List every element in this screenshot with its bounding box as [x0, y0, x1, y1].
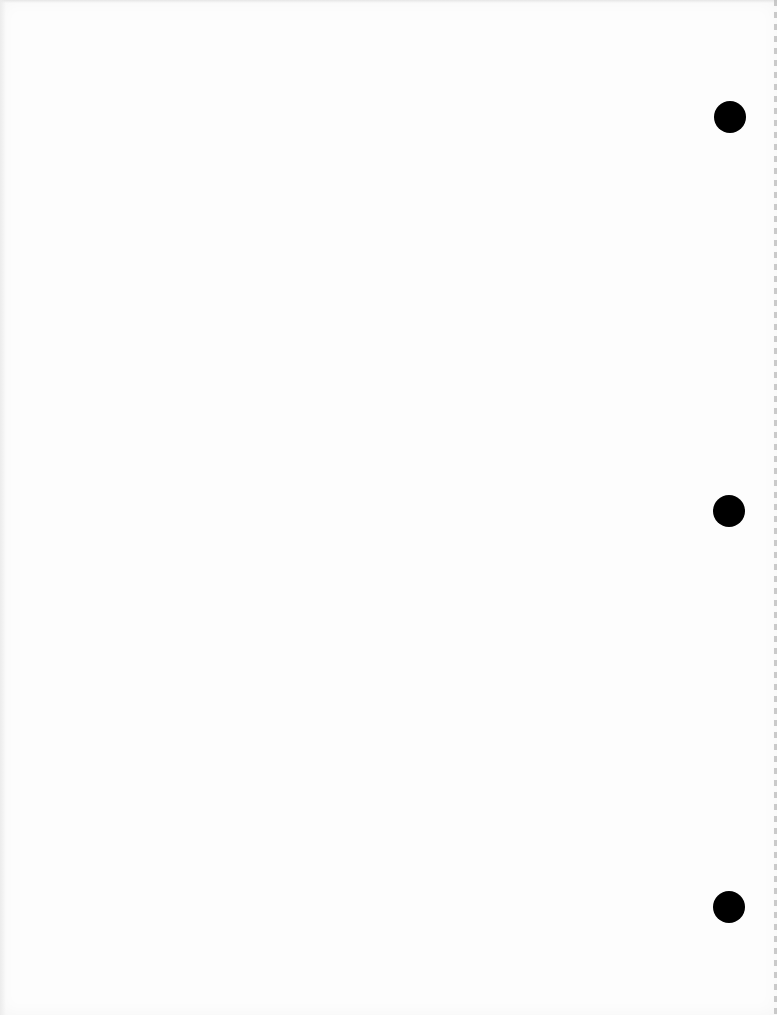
punch-hole-bottom-icon: [713, 891, 745, 923]
punch-hole-top-icon: [714, 101, 746, 133]
punch-hole-middle-icon: [713, 495, 745, 527]
blank-scanned-page: [0, 0, 777, 1015]
page-top-edge-shadow: [0, 0, 777, 3]
page-left-edge-shadow: [0, 0, 6, 1015]
